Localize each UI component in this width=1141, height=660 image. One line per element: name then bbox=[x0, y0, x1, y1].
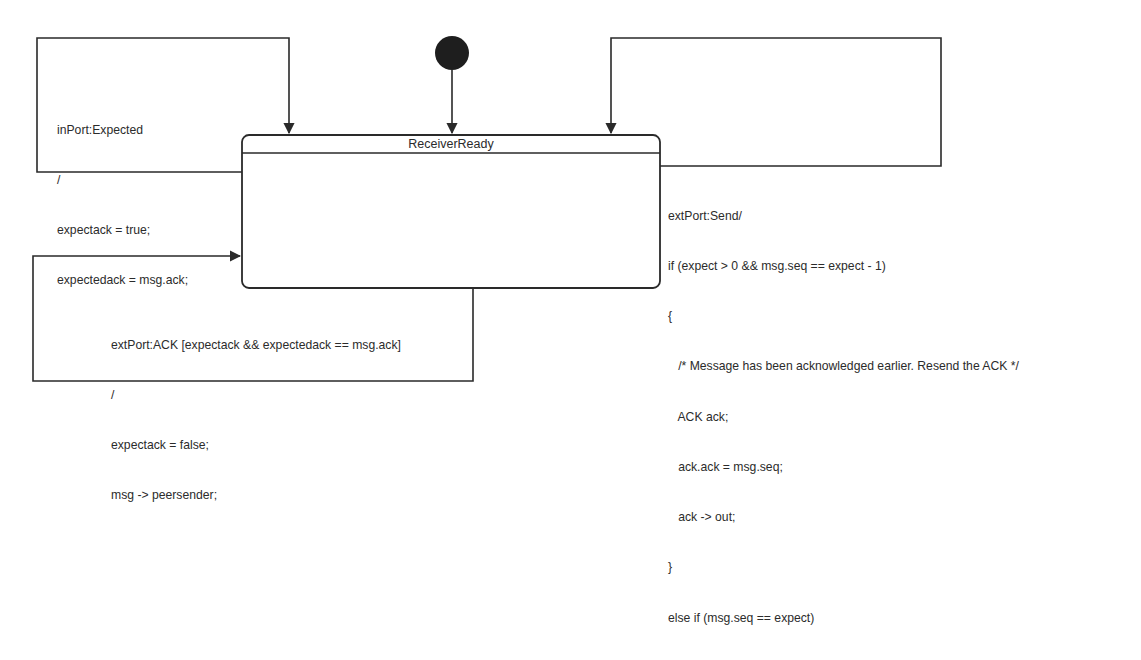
label-line: } bbox=[668, 559, 1019, 576]
label-line: / bbox=[57, 172, 188, 189]
label-line: else if (msg.seq == expect) bbox=[668, 610, 1019, 627]
label-line: inPort:Expected bbox=[57, 122, 188, 139]
label-line: msg -> peersender; bbox=[111, 487, 401, 504]
label-line: ack -> out; bbox=[668, 509, 1019, 526]
label-line: extPort:ACK [expectack && expectedack ==… bbox=[111, 337, 401, 354]
transition-label-extport-ack: extPort:ACK [expectack && expectedack ==… bbox=[111, 304, 401, 520]
label-line: expectack = false; bbox=[111, 437, 401, 454]
transition-label-inport-expected: inPort:Expected / expectack = true; expe… bbox=[57, 89, 188, 305]
label-line: ACK ack; bbox=[668, 409, 1019, 426]
initial-state-node[interactable] bbox=[435, 36, 469, 133]
label-line: expectedack = msg.ack; bbox=[57, 272, 188, 289]
label-line: extPort:Send/ bbox=[668, 208, 1019, 225]
state-title: ReceiverReady bbox=[242, 136, 660, 152]
label-line: ack.ack = msg.seq; bbox=[668, 459, 1019, 476]
state-receiver-ready[interactable] bbox=[242, 135, 660, 288]
label-line: / bbox=[111, 387, 401, 404]
label-line: /* Message has been acknowledged earlier… bbox=[668, 358, 1019, 375]
label-line: expectack = true; bbox=[57, 222, 188, 239]
label-line: { bbox=[668, 308, 1019, 325]
label-line: if (expect > 0 && msg.seq == expect - 1) bbox=[668, 258, 1019, 275]
transition-label-extport-send: extPort:Send/ if (expect > 0 && msg.seq … bbox=[668, 174, 1019, 660]
